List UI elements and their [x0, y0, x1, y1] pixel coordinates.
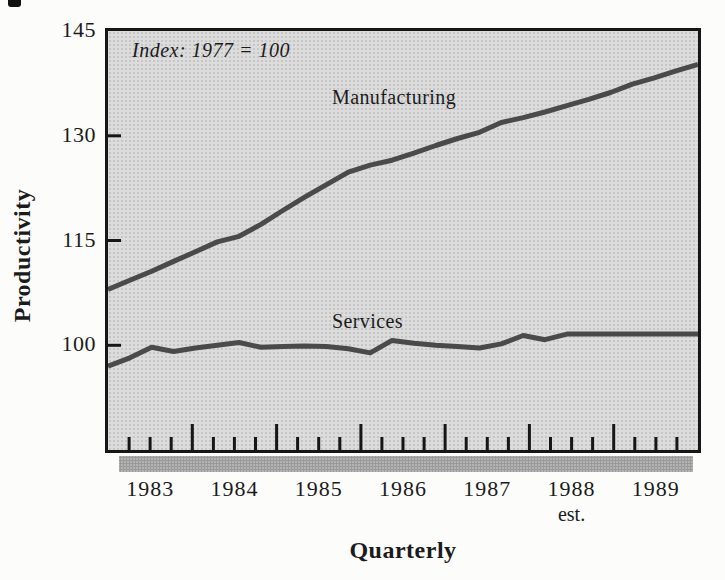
year-label-1984: 1984 — [210, 476, 258, 502]
year-label-1983: 1983 — [126, 476, 174, 502]
x-axis-title: Quarterly — [105, 537, 701, 564]
y-tick-label-115: 115 — [0, 227, 96, 253]
manufacturing-series-label: Manufacturing — [332, 86, 456, 109]
services-series-label: Services — [332, 310, 403, 333]
y-tick-label-145: 145 — [0, 17, 96, 43]
plot-drop-shadow — [119, 456, 693, 472]
year-label-1987: 1987 — [463, 476, 511, 502]
productivity-index-chart: Productivity 100115130145 Index: 1977 = … — [0, 0, 725, 580]
plot-area: Index: 1977 = 100 Manufacturing Services — [105, 28, 701, 453]
index-base-annotation: Index: 1977 = 100 — [132, 39, 290, 62]
y-tick-label-100: 100 — [0, 332, 96, 358]
estimated-note: est. — [558, 503, 585, 526]
year-label-1986: 1986 — [379, 476, 427, 502]
year-label-1988: 1988 — [548, 476, 596, 502]
y-axis-tick-labels: 100115130145 — [0, 0, 96, 460]
year-label-1989: 1989 — [632, 476, 680, 502]
services-line — [108, 334, 698, 366]
year-label-1985: 1985 — [295, 476, 343, 502]
x-axis-year-labels: 198319841985198619871988est.1989 — [0, 476, 725, 536]
y-tick-label-130: 130 — [0, 122, 96, 148]
